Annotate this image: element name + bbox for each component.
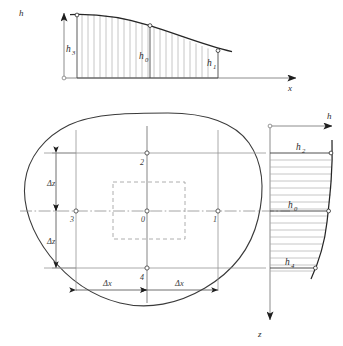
right-plot-label-h2: h 2 (296, 142, 306, 154)
top-plot-label-h0-sub: 0 (145, 56, 149, 63)
top-plot-point-h3 (75, 13, 79, 17)
top-plot-x-axis-label: x (287, 83, 292, 93)
plan-view-node-4-marker (145, 266, 149, 270)
technical-diagram: h x h 3 h 0 h 1 (0, 0, 343, 346)
plan-view-node-2-label: 2 (140, 158, 144, 167)
right-plot-label-h2-base: h (296, 142, 301, 152)
top-plot-point-h1 (216, 49, 220, 53)
plan-view-node-1-marker (216, 209, 220, 213)
figure-root: h x h 3 h 0 h 1 (0, 0, 343, 346)
plan-view-dim-dx-left-label: Δx (102, 279, 112, 288)
top-plot-label-h0-base: h (139, 51, 144, 61)
right-plot-label-h4-base: h (285, 257, 290, 267)
right-plot-h-axis-label: h (327, 111, 332, 121)
top-plot-point-h0 (148, 24, 152, 28)
plan-view-node-2-marker (145, 151, 149, 155)
right-plot-point-h0 (327, 209, 331, 213)
plan-view-dim-dz-upper-label: Δz (46, 179, 56, 188)
plan-view-dim-dz-lower-label: Δz (46, 237, 56, 246)
right-plot-label-h0-base: h (288, 200, 293, 210)
plan-view-node-4-label: 4 (140, 273, 144, 282)
right-plot-label-h4: h 4 (285, 257, 295, 269)
right-plot-hatching (270, 160, 332, 271)
right-plot-origin-marker (268, 124, 272, 128)
plan-view-dim-dx-right: Δx (147, 279, 218, 290)
top-plot: h x h 3 h 0 h 1 (19, 8, 296, 93)
plan-view-dim-dz-upper: Δz (46, 153, 56, 211)
right-plot: h z h 2 h 0 h 4 (257, 111, 333, 339)
plan-view-node-3-label: 3 (69, 215, 74, 224)
plan-view-node-0-label: 0 (141, 215, 145, 224)
top-plot-label-h3-base: h (66, 44, 71, 54)
top-plot-label-h3-sub: 3 (71, 49, 76, 56)
top-plot-label-h1-sub: 1 (213, 63, 216, 70)
top-plot-label-h1-base: h (207, 58, 212, 68)
plan-view-node-1-label: 1 (213, 215, 217, 224)
plan-view-node-3-marker (74, 209, 78, 213)
top-plot-origin-marker (62, 76, 66, 80)
plan-view: 0 1 2 3 4 Δz Δz Δx Δx (20, 113, 290, 306)
right-plot-z-axis-label: z (257, 329, 262, 339)
right-plot-point-h2 (329, 151, 333, 155)
top-plot-label-h3: h 3 (66, 44, 76, 56)
plan-view-dim-dz-lower: Δz (46, 211, 56, 268)
plan-view-dim-dx-left: Δx (76, 279, 147, 290)
right-plot-point-h4 (314, 266, 318, 270)
plan-view-dim-dx-right-label: Δx (174, 279, 184, 288)
top-plot-h-axis-label: h (19, 8, 24, 18)
top-plot-label-h0: h 0 (139, 51, 149, 63)
plan-view-node-0-marker (145, 209, 149, 213)
top-plot-label-h1: h 1 (207, 58, 216, 70)
